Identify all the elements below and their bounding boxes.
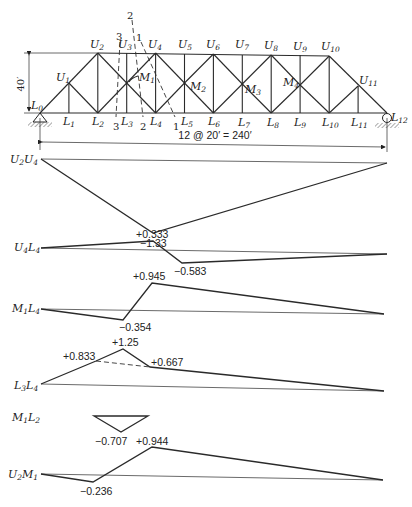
svg-text:M1L2: M1L2 [11, 411, 40, 425]
influence-line-u2u4: U2U4 −1.33 [10, 153, 387, 249]
svg-text:L10: L10 [321, 116, 339, 130]
svg-text:−0.236: −0.236 [80, 485, 113, 497]
svg-text:L8: L8 [266, 116, 279, 130]
svg-text:L7: L7 [237, 116, 250, 130]
svg-text:L3L4: L3L4 [13, 379, 38, 393]
svg-text:U2U4: U2U4 [10, 153, 38, 167]
svg-text:+0.333: +0.333 [136, 228, 169, 240]
truss-influence-diagram: 40′ 12 @ 20′ = 240′ U1 U2 U3 U4 U5 U6 U7… [0, 0, 412, 507]
svg-text:−0.707: −0.707 [95, 435, 128, 447]
verticals [69, 53, 358, 113]
svg-text:−0.583: −0.583 [174, 265, 207, 277]
svg-text:U6: U6 [206, 38, 220, 52]
influence-line-m1l2: M1L2 −0.707 [11, 411, 148, 447]
svg-text:L4: L4 [149, 115, 162, 129]
svg-text:L2: L2 [91, 115, 104, 129]
svg-text:M1: M1 [138, 71, 155, 85]
svg-text:U5: U5 [178, 38, 192, 52]
svg-text:U11: U11 [359, 74, 378, 88]
svg-text:M2: M2 [189, 80, 206, 94]
section-2-top: 2 [127, 10, 133, 21]
influence-line-u4l4: U4L4 +0.333 −0.583 [14, 228, 387, 277]
svg-text:M3: M3 [244, 83, 261, 97]
svg-text:U4L4: U4L4 [14, 241, 40, 255]
svg-text:+0.945: +0.945 [133, 270, 166, 282]
span-label: 12 @ 20′ = 240′ [178, 129, 251, 141]
section-3-bottom: 3 [113, 121, 119, 132]
svg-text:U7: U7 [235, 38, 249, 52]
section-2-bottom: 2 [140, 121, 146, 132]
svg-text:M1L4: M1L4 [11, 302, 40, 316]
influence-line-m1l4: M1L4 +0.945 −0.354 [11, 270, 384, 333]
svg-text:U1: U1 [56, 71, 70, 85]
svg-text:L11: L11 [350, 116, 368, 130]
svg-text:+1.25: +1.25 [112, 336, 139, 348]
node-labels: U1 U2 U3 U4 U5 U6 U7 U8 U9 U10 U11 L0 L1… [30, 38, 408, 130]
svg-text:U10: U10 [321, 40, 340, 54]
svg-text:M4: M4 [282, 76, 299, 90]
svg-text:L12: L12 [390, 111, 408, 125]
svg-text:+0.944: +0.944 [136, 435, 169, 447]
svg-text:U2M1: U2M1 [8, 468, 38, 482]
svg-text:L3: L3 [120, 115, 133, 129]
section-3-top: 3 [116, 31, 122, 42]
svg-text:L1: L1 [62, 115, 75, 129]
svg-text:U8: U8 [264, 39, 278, 53]
svg-text:L5: L5 [180, 115, 193, 129]
svg-text:L0: L0 [30, 99, 43, 113]
svg-text:−0.354: −0.354 [119, 321, 152, 333]
svg-text:U9: U9 [293, 40, 307, 54]
truss: 40′ 12 @ 20′ = 240′ U1 U2 U3 U4 U5 U6 U7… [15, 10, 408, 152]
section-1-top: 1 [136, 32, 142, 43]
svg-text:L6: L6 [207, 115, 220, 129]
svg-text:L9: L9 [293, 116, 306, 130]
svg-text:+0.833: +0.833 [63, 350, 96, 362]
influence-line-l3l4: L3L4 +0.833 +1.25 +0.667 [13, 336, 384, 393]
height-label: 40′ [15, 76, 26, 92]
svg-text:U2: U2 [90, 38, 104, 52]
section-1-bottom: 1 [173, 121, 179, 132]
svg-text:+0.667: +0.667 [151, 356, 184, 368]
svg-text:U4: U4 [148, 38, 162, 52]
influence-line-u2m1: U2M1 −0.236 +0.944 [8, 435, 383, 497]
